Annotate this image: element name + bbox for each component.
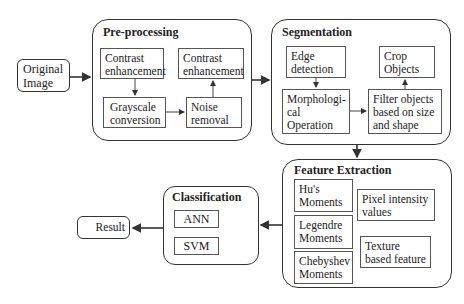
morphological-operation-step: Morphologi- cal Operation (282, 89, 350, 134)
feature-label: Moments (299, 268, 348, 281)
step-label: Grayscale (110, 101, 161, 114)
step-label: detection (291, 63, 341, 76)
step-label: Crop (384, 50, 430, 63)
pixel-intensity-feature: Pixel intensity values (357, 189, 435, 221)
original-image-node: Original Image (17, 59, 70, 92)
preprocessing-title: Pre-processing (103, 25, 179, 40)
step-label: Contrast (183, 52, 239, 65)
method-label: SVM (183, 239, 209, 253)
crop-objects-step: Crop Objects (379, 46, 435, 78)
step-label: and shape (373, 119, 437, 132)
grayscale-conversion-step: Grayscale conversion (103, 97, 166, 128)
feature-label: values (362, 206, 430, 219)
result-label: Result (96, 221, 125, 233)
step-label: cal (287, 106, 345, 119)
step-label: Contrast (105, 52, 159, 65)
step-label: enhancement (105, 65, 159, 78)
step-label: conversion (110, 114, 161, 127)
feature-extraction-title: Feature Extraction (294, 163, 391, 178)
feature-label: Texture (365, 240, 426, 253)
svm-method: SVM (174, 237, 219, 255)
step-label: Operation (287, 119, 345, 132)
hu-moments-feature: Hu's Moments (294, 179, 353, 212)
ann-method: ANN (174, 210, 219, 228)
feature-label: Legendre (299, 219, 348, 232)
step-label: enhancement (183, 65, 239, 78)
edge-detection-step: Edge detection (286, 46, 346, 78)
original-image-label-1: Original (23, 62, 64, 76)
feature-label: based feature (365, 253, 426, 266)
method-label: ANN (184, 212, 210, 226)
contrast-enhancement-2-step: Contrast enhancement (178, 48, 244, 79)
step-label: Filter objects (373, 93, 437, 106)
segmentation-title: Segmentation (282, 25, 352, 40)
feature-label: Chebyshev (299, 255, 348, 268)
chebyshev-moments-feature: Chebyshev Moments (294, 251, 353, 284)
feature-label: Hu's (299, 183, 348, 196)
classification-title: Classification (172, 190, 241, 205)
step-label: removal (191, 114, 237, 127)
result-node: Result (77, 216, 130, 239)
feature-label: Moments (299, 196, 348, 209)
texture-feature: Texture based feature (360, 236, 431, 268)
step-label: based on size (373, 106, 437, 119)
feature-label: Moments (299, 232, 348, 245)
step-label: Objects (384, 63, 430, 76)
original-image-label-2: Image (23, 76, 64, 90)
step-label: Edge (291, 50, 341, 63)
contrast-enhancement-1-step: Contrast enhancement (100, 48, 164, 79)
legendre-moments-feature: Legendre Moments (294, 215, 353, 249)
step-label: Morphologi- (287, 93, 345, 106)
noise-removal-step: Noise removal (186, 97, 242, 128)
step-label: Noise (191, 101, 237, 114)
filter-objects-step: Filter objects based on size and shape (368, 89, 442, 134)
feature-label: Pixel intensity (362, 193, 430, 206)
